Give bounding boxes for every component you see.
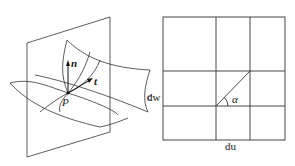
surface-top-edge (67, 40, 150, 70)
normal-arrowhead (66, 60, 70, 66)
angle-label: α (232, 93, 238, 105)
parameter-grid (163, 17, 285, 140)
dw-label: dw (147, 91, 161, 103)
diagram: n t P c α dw du (0, 0, 295, 166)
tangent-vector (68, 80, 90, 93)
angle-arc (224, 97, 228, 106)
surface-figure (10, 17, 150, 157)
surface-back-edge (63, 40, 68, 93)
tangent-label: t (94, 75, 98, 87)
point-p (67, 92, 70, 95)
surface-curve-5 (68, 93, 118, 115)
point-label: P (61, 96, 69, 108)
du-label: du (225, 140, 237, 152)
surface-curve-1 (35, 75, 148, 112)
normal-label: n (71, 57, 77, 69)
grid-border (163, 17, 285, 140)
